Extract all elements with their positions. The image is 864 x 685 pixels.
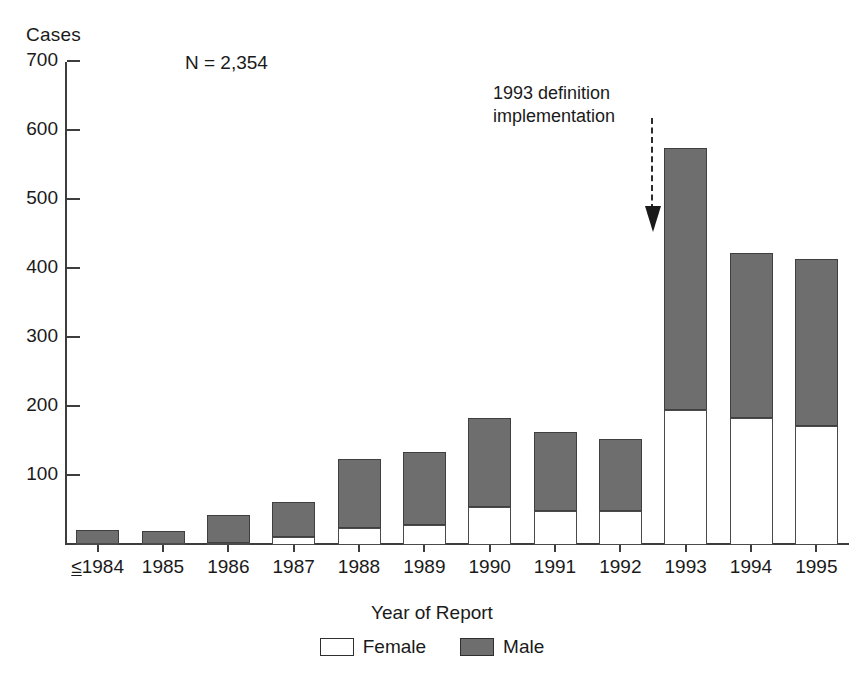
x-tick-1993	[685, 545, 687, 552]
x-axis-label-text: 1984	[82, 556, 124, 577]
bar-segment-female[interactable]	[468, 507, 511, 545]
y-tick-label-100: 100	[26, 463, 58, 485]
x-axis-title: Year of Report	[0, 602, 864, 624]
y-tick-label-300: 300	[26, 325, 58, 347]
x-axis-label-1989: 1989	[403, 556, 445, 578]
x-tick-1992	[619, 545, 621, 552]
bar-group-1989[interactable]	[403, 452, 446, 545]
bar-group-1987[interactable]	[272, 502, 315, 545]
x-tick-1985	[162, 545, 164, 552]
x-tick-le1984	[97, 545, 99, 552]
x-axis-label-1994: 1994	[730, 556, 772, 578]
bar-group-1988[interactable]	[338, 459, 381, 545]
x-axis-label-text: 1993	[665, 556, 707, 577]
plot-area: 700600500400300200100	[65, 62, 849, 545]
cases-by-year-stacked-bar-chart: Cases N = 2,354 1993 definition implemen…	[0, 0, 864, 685]
bars-layer	[65, 62, 849, 545]
bar-segment-female[interactable]	[664, 410, 707, 545]
legend-swatch-female	[320, 638, 354, 656]
bar-segment-male[interactable]	[338, 459, 381, 528]
bar-group-le1984[interactable]	[76, 530, 119, 545]
bar-segment-male[interactable]	[730, 253, 773, 418]
x-axis-label-text: 1985	[142, 556, 184, 577]
x-axis-label-1987: 1987	[273, 556, 315, 578]
y-tick-label-700: 700	[26, 49, 58, 71]
x-tick-1991	[554, 545, 556, 552]
bar-segment-male[interactable]	[207, 515, 250, 543]
legend-item-male[interactable]: Male	[460, 636, 544, 658]
x-axis-label-1985: 1985	[142, 556, 184, 578]
bar-group-1995[interactable]	[795, 259, 838, 545]
bar-group-1994[interactable]	[730, 253, 773, 545]
legend-swatch-male	[460, 638, 494, 656]
bar-group-1993[interactable]	[664, 148, 707, 545]
x-axis-label-text: 1989	[403, 556, 445, 577]
x-tick-1986	[227, 545, 229, 552]
less-than-or-equal-icon: ≤	[71, 556, 81, 577]
bar-group-1990[interactable]	[468, 418, 511, 545]
bar-segment-male[interactable]	[403, 452, 446, 525]
bar-segment-male[interactable]	[795, 259, 838, 426]
x-axis-labels: ≤198419851986198719881989199019911992199…	[65, 556, 849, 586]
chart-legend: FemaleMale	[0, 636, 864, 658]
x-tick-1994	[750, 545, 752, 552]
x-axis-label-1988: 1988	[338, 556, 380, 578]
x-axis-label-1991: 1991	[534, 556, 576, 578]
bar-segment-male[interactable]	[664, 148, 707, 410]
x-axis-label-1986: 1986	[207, 556, 249, 578]
bar-group-1986[interactable]	[207, 515, 250, 545]
x-tick-1990	[489, 545, 491, 552]
x-axis-label-text: 1987	[273, 556, 315, 577]
x-axis-label-1993: 1993	[665, 556, 707, 578]
x-axis-label-text: 1994	[730, 556, 772, 577]
legend-item-female[interactable]: Female	[320, 636, 426, 658]
bar-segment-male[interactable]	[76, 530, 119, 544]
x-axis-label-text: 1990	[469, 556, 511, 577]
bar-segment-female[interactable]	[534, 511, 577, 545]
bar-segment-male[interactable]	[468, 418, 511, 507]
x-tick-1989	[423, 545, 425, 552]
y-tick-label-600: 600	[26, 118, 58, 140]
y-tick-label-400: 400	[26, 256, 58, 278]
bar-segment-female[interactable]	[338, 528, 381, 545]
bar-group-1992[interactable]	[599, 439, 642, 545]
x-axis-label-text: 1995	[795, 556, 837, 577]
x-axis-label-1995: 1995	[795, 556, 837, 578]
y-axis-title: Cases	[26, 24, 81, 46]
x-axis-label-text: 1991	[534, 556, 576, 577]
y-tick-label-200: 200	[26, 394, 58, 416]
x-axis-label-1990: 1990	[469, 556, 511, 578]
bar-segment-female[interactable]	[272, 537, 315, 545]
x-tick-1988	[358, 545, 360, 552]
bar-segment-male[interactable]	[272, 502, 315, 537]
bar-segment-male[interactable]	[534, 432, 577, 511]
x-axis-label-1992: 1992	[599, 556, 641, 578]
legend-label-female: Female	[363, 636, 426, 658]
bar-segment-male[interactable]	[599, 439, 642, 511]
bar-group-1985[interactable]	[142, 531, 185, 545]
x-axis-label-text: 1988	[338, 556, 380, 577]
x-axis-label-text: 1992	[599, 556, 641, 577]
legend-label-male: Male	[503, 636, 544, 658]
x-tick-1995	[815, 545, 817, 552]
bar-segment-female[interactable]	[795, 426, 838, 545]
x-axis-label-text: 1986	[207, 556, 249, 577]
bar-group-1991[interactable]	[534, 432, 577, 545]
y-tick-label-500: 500	[26, 187, 58, 209]
x-axis-label-1984: ≤1984	[71, 556, 124, 578]
x-tick-1987	[293, 545, 295, 552]
bar-segment-female[interactable]	[599, 511, 642, 545]
bar-segment-female[interactable]	[403, 525, 446, 545]
bar-segment-female[interactable]	[730, 418, 773, 545]
